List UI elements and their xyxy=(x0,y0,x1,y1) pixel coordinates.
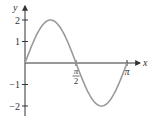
sine-chart: x y 21−1−2 π2π xyxy=(0,0,150,120)
y-tick-label: −2 xyxy=(9,101,20,112)
y-tick-label: 2 xyxy=(15,15,20,26)
x-tick-label-denominator: 2 xyxy=(74,76,79,86)
x-ticks: π2π xyxy=(73,60,131,86)
x-axis-label: x xyxy=(142,57,148,68)
y-axis-label: y xyxy=(12,2,18,13)
y-tick-label: 1 xyxy=(15,36,20,47)
y-tick-label: −1 xyxy=(9,79,20,90)
